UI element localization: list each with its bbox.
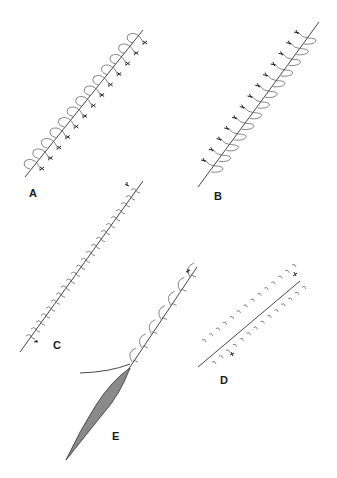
panel-d-drawing xyxy=(198,264,306,367)
panel-c-drawing xyxy=(20,181,143,352)
panel-a-drawing xyxy=(24,30,147,177)
panel-label-b: B xyxy=(214,190,222,202)
suture-diagram xyxy=(0,0,337,478)
panel-e-drawing xyxy=(66,263,197,460)
panel-label-e: E xyxy=(112,430,119,442)
panel-label-a: A xyxy=(29,187,37,199)
panel-label-d: D xyxy=(220,374,228,386)
panel-b-drawing xyxy=(198,22,319,187)
panel-label-c: C xyxy=(53,339,61,351)
